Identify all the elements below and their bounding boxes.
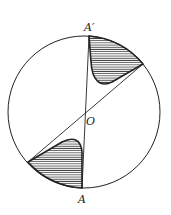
diagram-canvas: A′ O A: [0, 0, 171, 215]
diagonal-diameter: [28, 64, 143, 162]
label-o: O: [86, 115, 95, 128]
line-a-a-prime: [82, 36, 89, 188]
label-a: A: [77, 193, 86, 206]
lower-shaded-region: [28, 139, 82, 188]
label-a-prime: A′: [83, 21, 95, 34]
